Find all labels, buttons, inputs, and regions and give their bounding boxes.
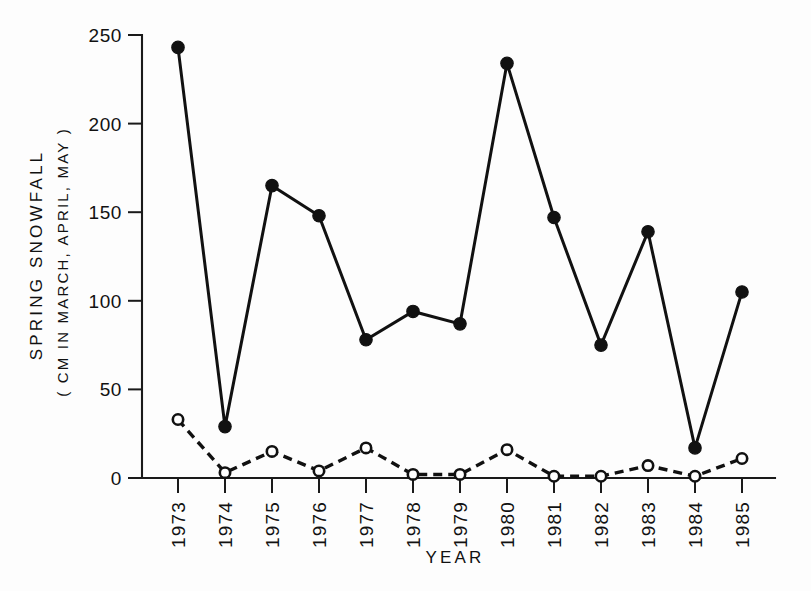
x-tick-label: 1982 [591, 501, 612, 548]
data-point-secondary [502, 444, 512, 454]
x-tick-label: 1984 [685, 501, 706, 548]
y-tick-label: 50 [100, 379, 122, 400]
x-tick-label: 1980 [497, 501, 518, 548]
x-tick-label: 1979 [450, 501, 471, 548]
data-point-total [501, 57, 513, 69]
data-point-total [736, 286, 748, 298]
data-point-secondary [549, 471, 559, 481]
data-point-secondary [267, 446, 277, 456]
y-axis-title: SPRING SNOWFALL [27, 150, 46, 360]
data-point-secondary [596, 471, 606, 481]
data-point-secondary [690, 471, 700, 481]
data-point-total [595, 339, 607, 351]
x-tick-label: 1983 [638, 501, 659, 548]
x-tick-label: 1975 [262, 501, 283, 548]
y-tick-label: 150 [88, 202, 122, 223]
data-point-total [454, 318, 466, 330]
x-tick-label: 1976 [309, 501, 330, 548]
data-point-secondary [220, 467, 230, 477]
data-point-total [266, 179, 278, 191]
x-tick-label: 1981 [544, 501, 565, 548]
data-point-total [548, 211, 560, 223]
data-point-total [313, 210, 325, 222]
data-point-secondary [408, 469, 418, 479]
data-point-secondary [361, 443, 371, 453]
x-tick-label: 1977 [356, 501, 377, 548]
x-tick-label: 1985 [732, 501, 753, 548]
x-tick-label: 1973 [168, 501, 189, 548]
series-line-total [178, 47, 742, 447]
data-point-secondary [314, 466, 324, 476]
series-markers-total [172, 41, 748, 454]
series-markers-secondary [173, 414, 747, 481]
data-point-secondary [173, 414, 183, 424]
y-axis-ticks: 050100150200250 [88, 25, 142, 489]
y-tick-label: 250 [88, 25, 122, 46]
data-point-total [407, 305, 419, 317]
y-tick-label: 200 [88, 114, 122, 135]
series-line-secondary [178, 420, 742, 477]
x-tick-label: 1974 [215, 501, 236, 548]
data-point-secondary [643, 460, 653, 470]
x-tick-label: 1978 [403, 501, 424, 548]
snowfall-line-chart: SPRING SNOWFALL ( CM IN MARCH, APRIL, MA… [0, 0, 811, 591]
data-point-secondary [455, 469, 465, 479]
data-point-total [172, 41, 184, 53]
y-tick-label: 0 [111, 468, 122, 489]
data-point-total [360, 334, 372, 346]
x-axis-ticks: 1973197419751976197719781979198019811982… [168, 478, 753, 548]
chart-figure: SPRING SNOWFALL ( CM IN MARCH, APRIL, MA… [0, 0, 811, 591]
data-point-total [689, 442, 701, 454]
data-point-total [642, 225, 654, 237]
data-point-total [219, 420, 231, 432]
y-axis-subtitle: ( CM IN MARCH, APRIL, MAY ) [54, 127, 71, 397]
y-tick-label: 100 [88, 291, 122, 312]
x-axis-title: YEAR [425, 548, 484, 567]
data-point-secondary [737, 453, 747, 463]
